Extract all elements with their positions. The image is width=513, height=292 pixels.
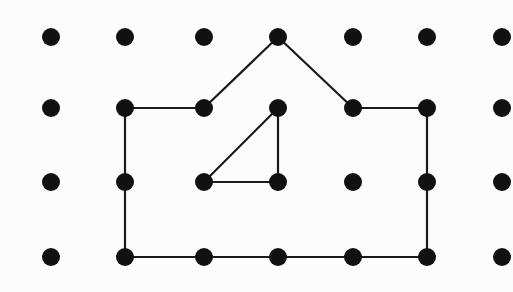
grid-dot-r3c7 [493,173,511,191]
figure-edge-roof-right-slope [278,37,353,108]
grid-dot-r4c1 [42,248,60,266]
grid-dot-r4c2 [116,248,134,266]
grid-dot-r4c5 [344,248,362,266]
grid-dot-r2c5 [344,99,362,117]
grid-dot-r1c2 [116,28,134,46]
grid-dot-r2c6 [418,99,436,117]
grid-dot-r3c3 [195,173,213,191]
figure-svg [0,0,513,292]
grid-dot-r3c2 [116,173,134,191]
grid-dot-r2c7 [493,99,511,117]
grid-dot-r4c3 [195,248,213,266]
figure-edge-inner-triangle-hypotenuse [204,108,278,182]
grid-dot-r3c1 [42,173,60,191]
dot-layer [42,28,511,266]
grid-dot-r3c5 [344,173,362,191]
grid-dot-r1c4 [269,28,287,46]
grid-dot-r3c4 [269,173,287,191]
grid-dot-r1c6 [418,28,436,46]
grid-dot-r4c4 [269,248,287,266]
grid-dot-r1c3 [195,28,213,46]
dot-grid-figure-canvas [0,0,513,292]
figure-edge-roof-left-slope [204,37,278,108]
grid-dot-r4c6 [418,248,436,266]
grid-dot-r3c6 [418,173,436,191]
grid-dot-r1c5 [344,28,362,46]
grid-dot-r2c3 [195,99,213,117]
grid-dot-r1c1 [42,28,60,46]
edge-layer [125,37,427,257]
grid-dot-r4c7 [493,248,511,266]
grid-dot-r1c7 [493,28,511,46]
grid-dot-r2c2 [116,99,134,117]
grid-dot-r2c4 [269,99,287,117]
grid-dot-r2c1 [42,99,60,117]
